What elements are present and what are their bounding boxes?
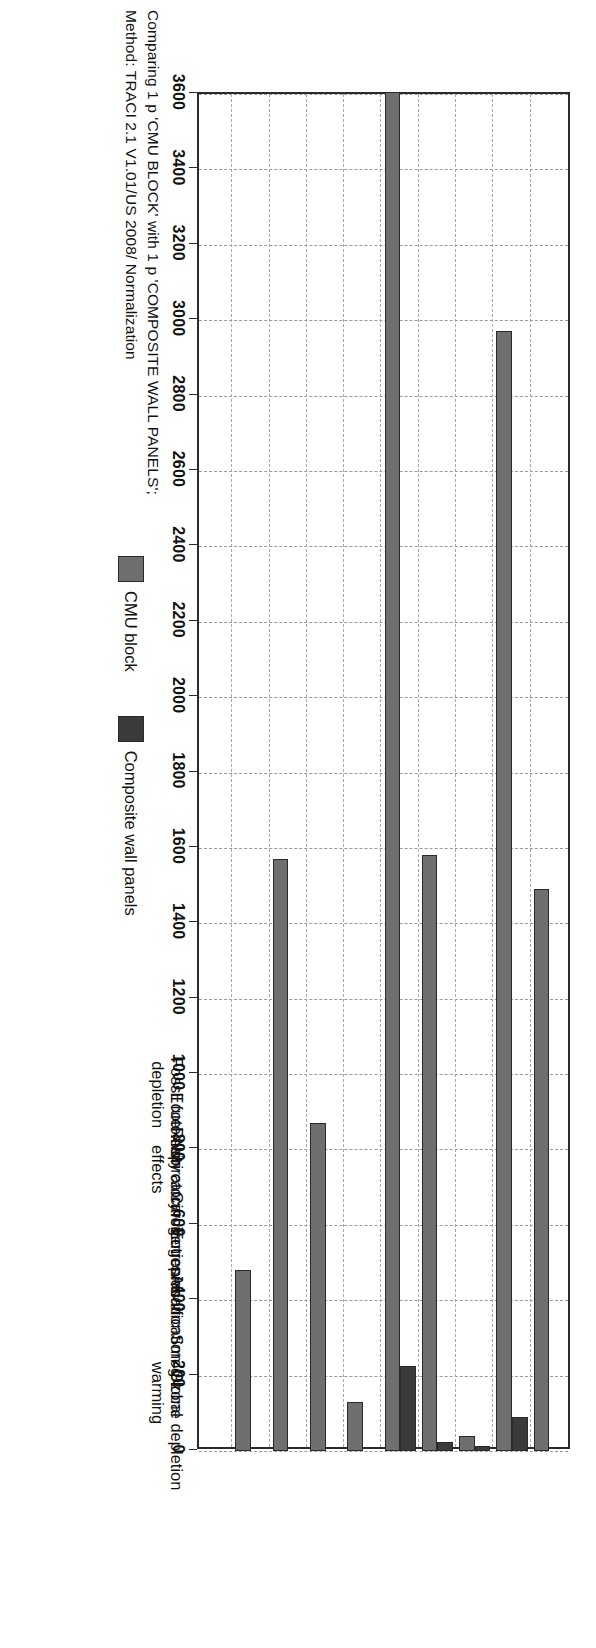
axis-tick-label: 2000 [169, 677, 187, 713]
axis-tick [189, 695, 197, 696]
bar-group [382, 94, 419, 1447]
axis-tick [189, 318, 197, 319]
axis-tick [189, 620, 197, 621]
axis-tick-label: 3600 [169, 74, 187, 110]
bar-group [195, 94, 232, 1447]
caption-line-1: Comparing 1 p 'CMU BLOCK' with 1 p 'COMP… [142, 10, 164, 650]
category-label-line: effects [147, 1127, 166, 1211]
value-gridline [199, 1451, 568, 1452]
legend-swatch [118, 716, 144, 742]
caption-line-2: Method: TRACI 2.1 V1.01/US 2008/ Normali… [120, 10, 142, 650]
bar-group [307, 94, 344, 1447]
axis-tick [189, 394, 197, 395]
bar-group [493, 94, 530, 1447]
axis-tick-label: 3400 [169, 149, 187, 185]
bar [496, 331, 512, 1451]
bar-group [344, 94, 381, 1447]
bar [459, 1436, 475, 1451]
legend-item: Composite wall panels [118, 716, 144, 916]
axis-tick-label: 1400 [169, 903, 187, 939]
bar [534, 889, 550, 1451]
bar-group [531, 94, 568, 1447]
axis-tick [189, 1147, 197, 1148]
axis-tick [189, 1072, 197, 1073]
axis-tick-label: 3000 [169, 300, 187, 336]
category-label-line: warming [147, 1362, 166, 1424]
axis-tick [189, 997, 197, 998]
axis-tick [189, 1223, 197, 1224]
axis-tick [189, 771, 197, 772]
category-label-line: depletion [147, 1058, 166, 1132]
axis-tick [189, 544, 197, 545]
bar [385, 92, 401, 1451]
category-label-line: Fossil fuel [167, 1058, 186, 1132]
bar-group [419, 94, 456, 1447]
bar [273, 859, 289, 1451]
axis-tick-label: 2400 [169, 526, 187, 562]
axis-tick [189, 167, 197, 168]
axis-tick [189, 1449, 197, 1450]
bar [310, 1123, 326, 1451]
bar-group [456, 94, 493, 1447]
bar [422, 855, 438, 1451]
chart-caption: Comparing 1 p 'CMU BLOCK' with 1 p 'COMP… [120, 10, 164, 650]
legend-label: Composite wall panels [122, 751, 141, 916]
axis-tick [189, 469, 197, 470]
axis-tick-label: 2200 [169, 602, 187, 638]
bar [512, 1417, 528, 1451]
axis-tick [189, 1298, 197, 1299]
plot-area [197, 92, 570, 1449]
chart-figure: 3600340032003000280026002400220020001800… [0, 0, 596, 1648]
bar [437, 1442, 453, 1451]
axis-tick-label: 2600 [169, 451, 187, 487]
bar-group [232, 94, 269, 1447]
category-label: Fossil fueldepletion [147, 1058, 186, 1132]
rotated-page-wrapper: 3600340032003000280026002400220020001800… [0, 0, 596, 1648]
bar [475, 1446, 491, 1451]
axis-tick-label: 3200 [169, 225, 187, 261]
bar [347, 1402, 363, 1451]
axis-tick-label: 1600 [169, 828, 187, 864]
bar-group [270, 94, 307, 1447]
axis-tick [189, 846, 197, 847]
axis-tick [189, 243, 197, 244]
axis-tick-label: 2800 [169, 375, 187, 411]
axis-tick-label: 1800 [169, 752, 187, 788]
axis-tick [189, 1374, 197, 1375]
axis-tick [189, 921, 197, 922]
bar [235, 1270, 251, 1451]
value-axis-ticks [188, 92, 197, 1449]
axis-tick [189, 92, 197, 93]
bar [400, 1366, 416, 1451]
axis-tick-label: 1200 [169, 978, 187, 1014]
